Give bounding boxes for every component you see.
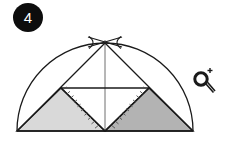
step-number-badge: 4 bbox=[13, 3, 43, 32]
diagram-canvas: 4 bbox=[0, 0, 227, 146]
step-number-label: 4 bbox=[24, 10, 32, 25]
magnifier-lens-icon bbox=[195, 73, 207, 85]
right-shaded-triangle bbox=[105, 88, 193, 131]
magnifier-zoom-in-icon[interactable] bbox=[195, 68, 215, 93]
left-shaded-triangle bbox=[17, 88, 105, 131]
